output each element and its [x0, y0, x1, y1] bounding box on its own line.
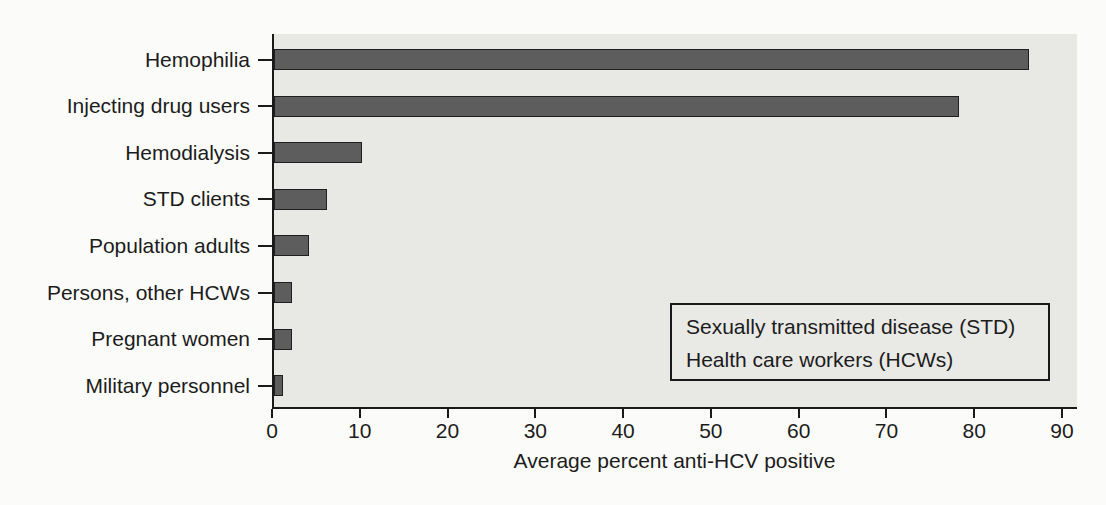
x-tick-60: [798, 409, 800, 418]
legend-line-1: Health care workers (HCWs): [686, 343, 1048, 376]
hcv-bar-chart-figure: HemophiliaInjecting drug usersHemodialys…: [0, 0, 1106, 505]
x-tick-10: [359, 409, 361, 418]
legend-box: Sexually transmitted disease (STD)Health…: [670, 303, 1050, 381]
x-tick-70: [885, 409, 887, 418]
y-tick-4: [258, 245, 272, 247]
y-tick-6: [258, 338, 272, 340]
category-label-1: Injecting drug users: [0, 93, 250, 119]
x-tick-label-90: 90: [1032, 419, 1092, 443]
y-tick-2: [258, 152, 272, 154]
x-tick-label-50: 50: [681, 419, 741, 443]
x-tick-label-80: 80: [944, 419, 1004, 443]
y-tick-1: [258, 105, 272, 107]
bar-6: [274, 329, 292, 350]
x-tick-80: [973, 409, 975, 418]
x-tick-label-20: 20: [418, 419, 478, 443]
x-tick-label-70: 70: [856, 419, 916, 443]
legend-line-0: Sexually transmitted disease (STD): [686, 310, 1048, 343]
x-tick-30: [534, 409, 536, 418]
category-label-6: Pregnant women: [0, 326, 250, 352]
x-tick-90: [1061, 409, 1063, 418]
category-label-4: Population adults: [0, 233, 250, 259]
bar-3: [274, 189, 327, 210]
category-label-0: Hemophilia: [0, 47, 250, 73]
x-tick-0: [271, 409, 273, 418]
bar-2: [274, 142, 362, 163]
y-tick-5: [258, 292, 272, 294]
bar-1: [274, 96, 959, 117]
x-tick-label-40: 40: [593, 419, 653, 443]
x-tick-50: [710, 409, 712, 418]
bar-7: [274, 375, 283, 396]
y-tick-7: [258, 385, 272, 387]
y-tick-0: [258, 59, 272, 61]
category-label-3: STD clients: [0, 186, 250, 212]
x-tick-label-10: 10: [330, 419, 390, 443]
category-label-2: Hemodialysis: [0, 140, 250, 166]
category-label-5: Persons, other HCWs: [0, 280, 250, 306]
bar-5: [274, 282, 292, 303]
x-tick-40: [622, 409, 624, 418]
x-tick-20: [447, 409, 449, 418]
bar-4: [274, 235, 309, 256]
x-tick-label-30: 30: [505, 419, 565, 443]
bar-0: [274, 49, 1029, 70]
x-tick-label-60: 60: [769, 419, 829, 443]
category-label-7: Military personnel: [0, 373, 250, 399]
x-axis-title: Average percent anti-HCV positive: [272, 448, 1077, 473]
y-tick-3: [258, 198, 272, 200]
x-tick-label-0: 0: [242, 419, 302, 443]
